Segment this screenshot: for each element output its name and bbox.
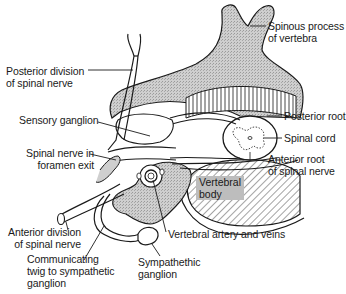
label-vertebral-artery: Vertebral artery and veins [168,228,285,240]
anterior-division-end [58,214,65,225]
sympathetic-ganglion-shape [138,227,158,244]
vertebral-vein-right [160,169,164,175]
label-sympathetic-ganglion-line2: ganglion [138,268,200,280]
label-anterior-division-line2: of spinal nerve [8,238,81,250]
label-spinous-process-line2: of vertebra [268,32,344,44]
label-spinous-process-line1: Spinous process [268,20,344,32]
label-vertebral-body: Vertebral body [196,176,244,200]
label-posterior-root-line1: Posterior root [284,110,346,122]
label-spinal-cord: Spinal cord [284,132,335,144]
label-sensory-ganglion-line1: Sensory ganglion [19,114,99,126]
label-posterior-division: Posterior division of spinal nerve [6,65,84,89]
label-sympathetic-ganglion-line1: Sympathethic [138,256,200,268]
label-spinal-nerve-foramen: Spinal nerve in foramen exit [26,147,94,171]
label-posterior-division-line2: of spinal nerve [6,77,84,89]
label-spinous-process: Spinous process of vertebra [268,20,344,44]
anterior-root [170,157,240,158]
label-communicating-twig: Communicating twig to sympathetic gangli… [27,253,114,289]
label-communicating-twig-line1: Communicating [27,253,114,265]
label-anterior-root: Anterior root of spinal nerve [268,153,335,177]
label-communicating-twig-line2: twig to sympathetic [27,265,114,277]
label-vertebral-artery-line1: Vertebral artery and veins [168,228,285,240]
vertebral-vein-left [137,173,141,179]
label-spinal-nerve-foramen-line1: Spinal nerve in [26,147,94,159]
label-spinal-cord-line1: Spinal cord [284,132,335,144]
label-communicating-twig-line3: ganglion [27,277,114,289]
label-anterior-division-line1: Anterior division [8,226,81,238]
label-anterior-root-line2: of spinal nerve [268,165,335,177]
label-posterior-root: Posterior root [284,110,346,122]
label-sympathetic-ganglion: Sympathethic ganglion [138,256,200,280]
label-vertebral-body-line1: Vertebral [199,176,241,188]
foramen-exit-nerve [96,156,120,182]
label-vertebral-body-line2: body [199,188,241,200]
label-anterior-division: Anterior division of spinal nerve [8,226,81,250]
label-posterior-division-line1: Posterior division [6,65,84,77]
label-anterior-root-line1: Anterior root [268,153,335,165]
label-spinal-nerve-foramen-line2: foramen exit [26,159,94,171]
label-sensory-ganglion: Sensory ganglion [19,114,99,126]
